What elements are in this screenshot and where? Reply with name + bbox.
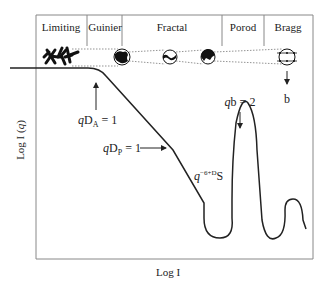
qdp-label: qDP = 1 — [103, 141, 141, 157]
scattering-regimes-diagram: Limiting Guinier Fractal Porod Bragg — [0, 0, 329, 289]
smooth-surface-icon — [201, 49, 215, 64]
region-label-guinier: Guinier — [88, 21, 122, 33]
y-axis-label: Log I (q) — [14, 120, 27, 160]
qda-label: qDA = 1 — [78, 113, 117, 129]
primary-particle-icon — [114, 49, 130, 65]
region-label-bragg: Bragg — [275, 21, 302, 33]
region-label-fractal: Fractal — [157, 21, 188, 33]
bragg-b-label: b — [284, 92, 290, 106]
slope-label: q−6+DS — [194, 169, 223, 183]
fractal-surface-icon — [163, 50, 177, 64]
region-label-porod: Porod — [230, 21, 257, 33]
x-axis-label: Log I — [156, 266, 180, 278]
aggregate-cluster-icon — [44, 48, 78, 64]
scattering-curve — [10, 68, 306, 239]
crystal-lattice-icon — [277, 49, 297, 65]
region-label-limiting: Limiting — [42, 21, 81, 33]
qb-label: qb = 2 — [225, 95, 256, 109]
